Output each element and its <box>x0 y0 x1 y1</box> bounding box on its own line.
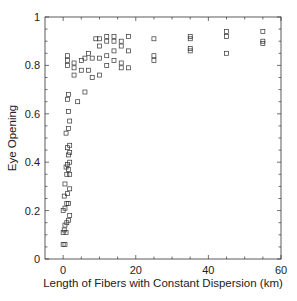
data-point-square <box>67 153 71 157</box>
data-point-square <box>119 39 123 43</box>
data-point-square <box>65 172 69 176</box>
data-point-square <box>67 109 71 113</box>
data-point-square <box>119 44 123 48</box>
y-tick-label: 1 <box>34 11 40 23</box>
y-tick-label: 0.6 <box>25 108 40 120</box>
data-point-square <box>112 34 116 38</box>
data-point-square <box>127 66 131 70</box>
data-point-square <box>105 34 109 38</box>
data-point-square <box>90 76 94 80</box>
data-point-square <box>119 61 123 65</box>
data-point-square <box>105 54 109 58</box>
data-point-square <box>68 172 72 176</box>
y-axis-label: Eye Opening <box>6 105 18 172</box>
data-point-square <box>188 34 192 38</box>
data-point-square <box>83 90 87 94</box>
data-point-square <box>127 34 131 38</box>
x-tick-label: 60 <box>275 264 287 276</box>
data-point-square <box>67 167 71 171</box>
data-point-square <box>66 97 70 101</box>
data-point-square <box>97 44 101 48</box>
data-point-square <box>119 66 123 70</box>
scatter-chart: 020406000.20.40.60.81 Length of Fibers w… <box>0 0 297 301</box>
data-point-square <box>112 39 116 43</box>
x-tick-label: 20 <box>130 264 142 276</box>
x-tick-label: 40 <box>202 264 214 276</box>
data-point-square <box>105 63 109 67</box>
data-point-square <box>152 37 156 41</box>
data-point-square <box>97 56 101 60</box>
data-point-square <box>66 63 70 67</box>
data-point-square <box>72 61 76 65</box>
data-point-square <box>152 59 156 63</box>
axis-ticks: 020406000.20.40.60.81 <box>25 11 287 276</box>
data-point-square <box>225 51 229 55</box>
data-point-square <box>68 187 72 191</box>
data-point-square <box>68 151 72 155</box>
data-point-square <box>225 34 229 38</box>
data-point-square <box>68 119 72 123</box>
data-point-square <box>79 68 83 72</box>
data-point-square <box>261 39 265 43</box>
y-tick-label: 0.4 <box>25 156 40 168</box>
data-point-square <box>67 92 71 96</box>
data-point-square <box>64 131 68 135</box>
y-tick-label: 0 <box>34 253 40 265</box>
data-point-square <box>90 56 94 60</box>
data-point-square <box>261 42 265 46</box>
data-point-square <box>261 30 265 34</box>
plot-frame <box>45 17 281 259</box>
data-point-square <box>152 54 156 58</box>
data-point-square <box>87 51 91 55</box>
data-point-square <box>63 182 67 186</box>
data-point-square <box>76 100 80 104</box>
data-point-square <box>225 30 229 34</box>
data-point-square <box>188 46 192 50</box>
data-point-square <box>112 49 116 53</box>
data-point-square <box>188 49 192 53</box>
data-point-square <box>87 68 91 72</box>
data-point-square <box>127 49 131 53</box>
data-point-square <box>64 165 68 169</box>
y-tick-label: 0.2 <box>25 205 40 217</box>
data-point-square <box>66 59 70 63</box>
data-point-square <box>72 66 76 70</box>
data-point-square <box>67 126 71 130</box>
data-point-square <box>105 39 109 43</box>
plot-border <box>45 17 281 259</box>
x-tick-label: 0 <box>60 264 66 276</box>
data-point-square <box>97 73 101 77</box>
y-tick-label: 0.8 <box>25 59 40 71</box>
data-points <box>61 30 265 247</box>
data-point-square <box>61 230 65 234</box>
data-point-square <box>66 54 70 58</box>
x-axis-label: Length of Fibers with Constant Dispersio… <box>43 277 283 289</box>
data-point-square <box>112 59 116 63</box>
data-point-square <box>188 37 192 41</box>
data-point-square <box>68 213 72 217</box>
data-point-square <box>72 73 76 77</box>
